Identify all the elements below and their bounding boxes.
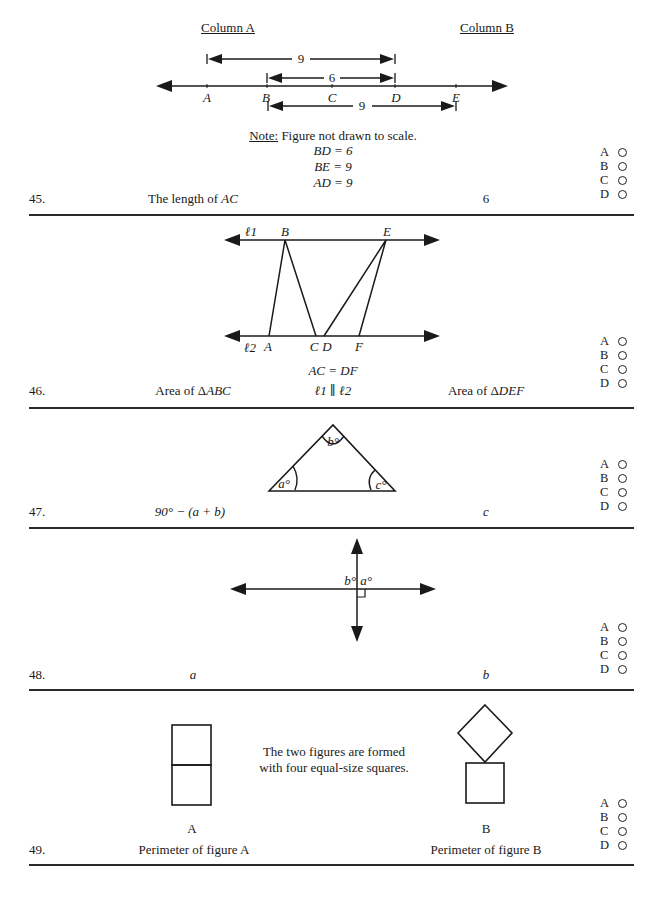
radio-circle-icon[interactable] [618, 841, 627, 850]
figure-a-label: A [187, 821, 196, 837]
question-divider [29, 864, 634, 866]
figure-a-bottom-square [172, 765, 211, 805]
answer-option-49-b[interactable]: B [600, 810, 640, 824]
answer-option-49-c[interactable]: C [600, 824, 640, 838]
option-label: B [600, 810, 618, 825]
figure-b [458, 705, 512, 803]
radio-circle-icon[interactable] [618, 827, 627, 836]
q49-column-a: Perimeter of figure A [139, 842, 250, 858]
question-number-49: 49. [29, 842, 45, 858]
q49-description-line2: with four equal-size squares. [259, 760, 408, 776]
option-label: C [600, 824, 618, 839]
option-label: D [600, 838, 618, 853]
answer-option-49-a[interactable]: A [600, 796, 640, 810]
radio-circle-icon[interactable] [618, 813, 627, 822]
figure-b-square [466, 763, 504, 803]
q49-description-line1: The two figures are formed [263, 744, 405, 760]
figure-a-top-square [172, 725, 211, 765]
option-label: A [600, 796, 618, 811]
q49-column-b: Perimeter of figure B [431, 842, 542, 858]
figure-b-label: B [482, 821, 491, 837]
figure-a [172, 725, 211, 805]
answer-bubbles-49: A B C D [600, 796, 640, 852]
radio-circle-icon[interactable] [618, 799, 627, 808]
answer-option-49-d[interactable]: D [600, 838, 640, 852]
figure-b-diamond [458, 705, 512, 762]
